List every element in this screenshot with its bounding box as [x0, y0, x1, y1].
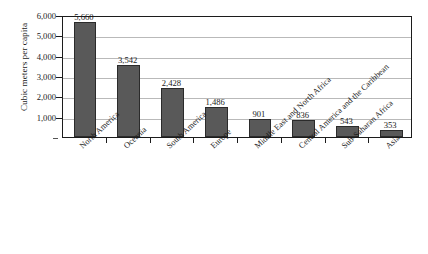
gridline — [63, 78, 411, 79]
gridline — [63, 58, 411, 59]
x-axis-tick-mark — [106, 138, 107, 143]
bar — [117, 65, 140, 137]
y-axis-tick-label: 2,000 — [10, 92, 56, 102]
y-axis-tick-label: 1,000 — [10, 113, 56, 123]
bar-value-label: 1,486 — [205, 97, 224, 107]
bar-value-label: 3,542 — [118, 55, 137, 65]
x-axis-tick-mark — [193, 138, 194, 143]
gridline — [63, 37, 411, 38]
bar — [74, 22, 97, 137]
x-axis-tick-mark — [237, 138, 238, 143]
bar-value-label: 353 — [384, 120, 397, 130]
y-axis-tick-label: 5,000 — [10, 31, 56, 41]
x-axis-tick-mark — [368, 138, 369, 143]
x-axis-tick-mark — [325, 138, 326, 143]
bar-value-label: 2,428 — [162, 78, 181, 88]
bar-value-label: 5,660 — [74, 12, 93, 22]
x-axis-tick-mark — [150, 138, 151, 143]
bar-value-label: 901 — [252, 109, 265, 119]
bar-chart-figure: Cubic meters per capita 1,0002,0003,0004… — [0, 0, 428, 254]
y-axis-tick-label: 6,000 — [10, 11, 56, 21]
y-axis-tick-label: 3,000 — [10, 72, 56, 82]
bar-value-label: 543 — [340, 116, 353, 126]
y-axis-tick-label: 4,000 — [10, 52, 56, 62]
x-axis-tick-mark — [281, 138, 282, 143]
y-axis-tick-mark — [53, 138, 58, 139]
